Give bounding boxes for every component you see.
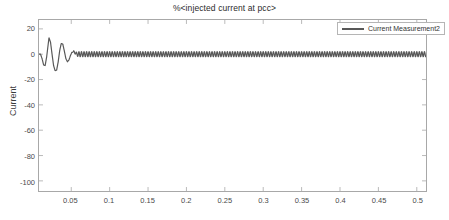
legend[interactable]: Current Measurement2 bbox=[337, 22, 445, 35]
series-line-current-measurement2 bbox=[39, 38, 426, 71]
x-tick-label: 0.4 bbox=[321, 196, 361, 205]
x-tick-label: 0.15 bbox=[128, 196, 168, 205]
legend-item-label: Current Measurement2 bbox=[368, 25, 440, 32]
page-title: %<injected current at pcc> bbox=[0, 3, 449, 13]
x-tick-label: 0.25 bbox=[205, 196, 245, 205]
x-tick-label: 0.35 bbox=[282, 196, 322, 205]
x-tick-label: 0.2 bbox=[166, 196, 206, 205]
y-axis-label: Current bbox=[8, 66, 18, 136]
legend-line-swatch bbox=[342, 28, 364, 30]
x-tick-label: 0.5 bbox=[398, 196, 438, 205]
scope-figure: %<injected current at pcc> Current 200-2… bbox=[0, 0, 449, 220]
y-tick-label: -100 bbox=[3, 177, 35, 186]
x-tick-label: 0.45 bbox=[359, 196, 399, 205]
y-tick-label: 0 bbox=[3, 49, 35, 58]
y-tick-label: 20 bbox=[3, 23, 35, 32]
x-tick-label: 0.05 bbox=[50, 196, 90, 205]
waveform-canvas bbox=[39, 20, 426, 191]
y-tick-label: -80 bbox=[3, 152, 35, 161]
x-tick-label: 0.1 bbox=[89, 196, 129, 205]
plot-area bbox=[38, 19, 427, 192]
x-tick-label: 0.3 bbox=[243, 196, 283, 205]
axis-ticks bbox=[39, 20, 426, 191]
